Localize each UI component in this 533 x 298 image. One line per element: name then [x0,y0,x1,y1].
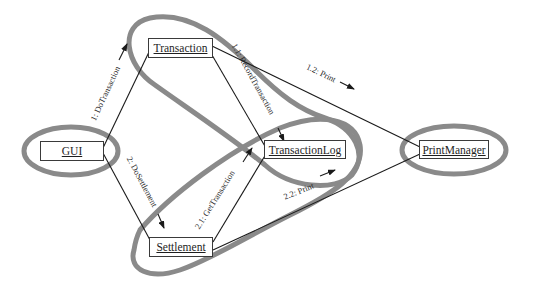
object-label: Settlement [156,241,205,253]
object-label: PrintManager [422,144,485,156]
object-transaction: Transaction [148,38,213,58]
object-label: Transaction [154,42,208,54]
link-settlement-printmanager [213,154,420,250]
arrow-icon [320,170,335,176]
object-label: TransactionLog [269,144,341,156]
link-gui-settlement [103,153,150,240]
object-settlement: Settlement [149,237,213,257]
arrow-icon [158,214,164,228]
link-gui-transaction [103,52,149,148]
object-printmanager: PrintManager [419,140,489,159]
object-label: GUI [62,145,82,157]
object-gui: GUI [40,141,104,161]
object-transactionlog: TransactionLog [264,140,346,159]
arrow-icon [119,44,127,60]
arrow-icon [340,82,354,89]
